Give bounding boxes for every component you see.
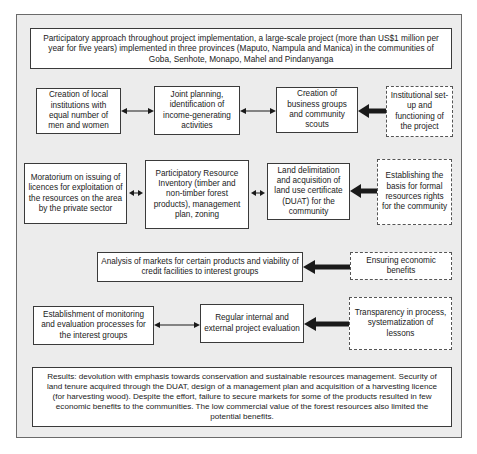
project-evaluation-text: Regular internal and external project ev… (204, 313, 300, 334)
results-text: Results: devolution with emphasis toward… (41, 372, 443, 422)
thick-arrow-icon (350, 184, 377, 198)
joint-planning-box: Joint planning, identification of income… (154, 86, 240, 135)
double-arrow-icon (154, 320, 200, 330)
market-analysis-box: Analysis of markets for certain products… (97, 252, 303, 282)
monitoring-text: Establishment of monitoring and evaluati… (37, 310, 150, 341)
moratorium-box: Moratorium on issuing of licences for ex… (24, 163, 127, 224)
joint-planning-text: Joint planning, identification of income… (158, 90, 236, 131)
header-text: Participatory approach throughout projec… (41, 33, 441, 64)
project-evaluation-box: Regular internal and external project ev… (200, 304, 304, 343)
resource-inventory-text: Participatory Resource Inventory (timber… (149, 169, 245, 220)
double-arrow-icon (129, 189, 143, 197)
thick-arrow-icon (304, 317, 349, 331)
monitoring-box: Establishment of monitoring and evaluati… (33, 306, 154, 345)
double-arrow-icon (121, 106, 154, 116)
thick-arrow-icon (303, 260, 350, 274)
economic-benefits-text: Ensuring economic benefits (354, 256, 448, 277)
business-groups-box: Creation of business groups and communit… (276, 87, 358, 133)
moratorium-text: Moratorium on issuing of licences for ex… (28, 173, 123, 214)
resource-inventory-box: Participatory Resource Inventory (timber… (145, 160, 249, 229)
thick-arrow-icon (358, 104, 386, 118)
transparency-text: Transparency in process, systematization… (353, 308, 448, 339)
local-institutions-box: Creation of local institutions with equa… (36, 88, 121, 134)
institutional-setup-text: Institutional set-up and functioning of … (390, 91, 449, 132)
land-delimitation-text: Land delimitation and acquisition of lan… (271, 166, 346, 217)
economic-benefits-box: Ensuring economic benefits (350, 252, 452, 280)
market-analysis-text: Analysis of markets for certain products… (101, 257, 299, 278)
double-arrow-icon (251, 189, 265, 197)
formal-rights-text: Establishing the basis for formal resour… (381, 171, 448, 212)
results-box: Results: devolution with emphasis toward… (32, 367, 452, 427)
transparency-box: Transparency in process, systematization… (349, 297, 452, 350)
land-delimitation-box: Land delimitation and acquisition of lan… (267, 163, 350, 220)
double-arrow-icon (240, 106, 276, 116)
local-institutions-text: Creation of local institutions with equa… (40, 90, 117, 131)
business-groups-text: Creation of business groups and communit… (280, 89, 354, 130)
header-box: Participatory approach throughout projec… (30, 28, 452, 69)
institutional-setup-box: Institutional set-up and functioning of … (386, 86, 453, 137)
formal-rights-box: Establishing the basis for formal resour… (377, 159, 452, 225)
